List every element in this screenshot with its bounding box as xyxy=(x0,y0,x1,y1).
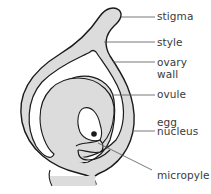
label-style: style xyxy=(157,37,183,48)
stalk-base xyxy=(50,176,96,186)
label-micropyle: micropyle xyxy=(157,170,210,181)
label-ovary-wall-line2: wall xyxy=(157,69,178,80)
label-egg-nucleus-line2: nucleus xyxy=(157,126,198,137)
egg-nucleus xyxy=(91,131,97,137)
label-ovary-wall-line1: ovary xyxy=(157,57,187,68)
label-stigma: stigma xyxy=(157,11,193,22)
label-ovule: ovule xyxy=(157,89,186,100)
